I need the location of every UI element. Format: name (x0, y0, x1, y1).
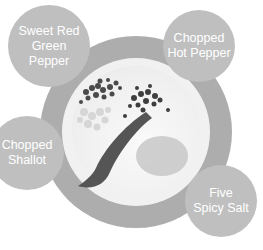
sweet-pepper-pile (79, 78, 122, 104)
bubble-text-line: Chopped (167, 31, 230, 46)
bubble-text-line: Spicy Salt (193, 201, 249, 216)
bubble-text-line: Five (193, 186, 249, 201)
label-bubble-sweet-red-green-pepper: Sweet Red Green Pepper (8, 5, 90, 87)
bubble-text-line: Pepper (18, 54, 79, 69)
bubble-text-line: Hot Pepper (167, 46, 230, 61)
label-bubble-five-spicy-salt: Five Spicy Salt (185, 165, 257, 237)
shallot-pile (77, 107, 111, 131)
bubble-text-line: Sweet Red (18, 24, 79, 39)
bubble-text-line: Shallot (2, 153, 53, 168)
label-bubble-chopped-hot-pepper: Chopped Hot Pepper (163, 10, 235, 82)
bubble-text-line: Chopped (2, 138, 53, 153)
spicy-salt-pile (136, 136, 188, 176)
bubble-text-line: Green (18, 39, 79, 54)
